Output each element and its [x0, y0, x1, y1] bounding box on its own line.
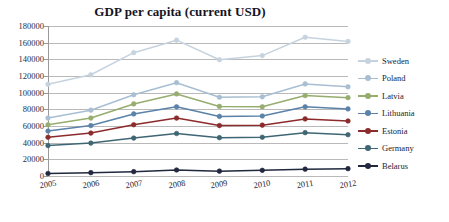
data-point[interactable]: [46, 122, 51, 127]
legend-item-germany[interactable]: Germany: [358, 140, 449, 158]
chart-container: GDP per capita (current USD) 02000040000…: [0, 0, 449, 222]
data-point[interactable]: [89, 116, 94, 121]
y-axis-tick-labels: 0200004000060000800001000001200001400001…: [0, 26, 44, 176]
data-point[interactable]: [89, 123, 94, 128]
data-point[interactable]: [131, 92, 136, 97]
y-axis-tick-label: 120000: [19, 72, 45, 81]
data-point[interactable]: [89, 141, 94, 146]
data-point[interactable]: [174, 38, 179, 43]
data-point[interactable]: [174, 92, 179, 97]
data-point[interactable]: [46, 82, 51, 87]
data-point[interactable]: [89, 108, 94, 113]
series-sweden: [46, 35, 351, 87]
legend-item-poland[interactable]: Poland: [358, 70, 449, 88]
data-point[interactable]: [260, 95, 265, 100]
plot-area: [48, 26, 348, 176]
y-axis-tick: [44, 176, 48, 177]
y-axis-tick-label: 100000: [19, 88, 45, 97]
data-point[interactable]: [346, 119, 351, 124]
series-lines: [48, 26, 348, 176]
legend-item-lithuania[interactable]: Lithuania: [358, 105, 449, 123]
data-point[interactable]: [217, 135, 222, 140]
data-point[interactable]: [260, 114, 265, 119]
legend-label: Belarus: [382, 161, 408, 171]
data-point[interactable]: [89, 170, 94, 175]
data-point[interactable]: [346, 107, 351, 112]
data-point[interactable]: [217, 57, 222, 62]
data-point[interactable]: [217, 104, 222, 109]
data-point[interactable]: [131, 122, 136, 127]
legend-label: Sweden: [382, 56, 409, 66]
data-point[interactable]: [303, 93, 308, 98]
legend-item-belarus[interactable]: Belarus: [358, 157, 449, 175]
data-point[interactable]: [217, 95, 222, 100]
legend-marker-icon: [358, 143, 378, 153]
x-axis-tick-label: 2008: [167, 179, 185, 191]
gridline: [48, 176, 348, 177]
data-point[interactable]: [46, 129, 51, 134]
data-point[interactable]: [131, 136, 136, 141]
data-point[interactable]: [303, 130, 308, 135]
data-point[interactable]: [217, 123, 222, 128]
series-belarus: [46, 166, 351, 175]
chart-legend: SwedenPolandLatviaLithuaniaEstoniaGerman…: [358, 52, 449, 175]
x-axis-tick-label: 2005: [39, 179, 57, 191]
data-point[interactable]: [303, 105, 308, 110]
x-axis-tick-label: 2011: [296, 179, 314, 190]
data-point[interactable]: [46, 143, 51, 148]
data-point[interactable]: [174, 116, 179, 121]
data-point[interactable]: [174, 105, 179, 110]
data-point[interactable]: [346, 166, 351, 171]
x-axis-tick-label: 2010: [253, 179, 271, 191]
data-point[interactable]: [346, 85, 351, 90]
data-point[interactable]: [174, 131, 179, 136]
data-point[interactable]: [303, 167, 308, 172]
data-point[interactable]: [217, 114, 222, 119]
data-point[interactable]: [131, 102, 136, 107]
y-axis-tick-label: 180000: [19, 22, 45, 31]
data-point[interactable]: [46, 135, 51, 140]
legend-marker-icon: [358, 56, 378, 66]
y-axis-tick-label: 140000: [19, 55, 45, 64]
x-axis-tick-label: 2012: [339, 179, 357, 191]
legend-label: Poland: [382, 73, 406, 83]
x-axis-tick-label: 2007: [125, 179, 143, 191]
y-axis-tick-label: 60000: [23, 122, 44, 131]
data-point[interactable]: [260, 123, 265, 128]
legend-label: Lithuania: [382, 108, 415, 118]
data-point[interactable]: [131, 169, 136, 174]
data-point[interactable]: [89, 72, 94, 77]
x-axis-tick-label: 2006: [82, 179, 100, 191]
legend-item-sweden[interactable]: Sweden: [358, 52, 449, 70]
data-point[interactable]: [346, 39, 351, 44]
legend-item-latvia[interactable]: Latvia: [358, 87, 449, 105]
data-point[interactable]: [174, 80, 179, 85]
data-point[interactable]: [303, 117, 308, 122]
y-axis-tick-label: 80000: [23, 105, 44, 114]
series-line: [48, 37, 348, 84]
data-point[interactable]: [260, 105, 265, 110]
data-point[interactable]: [260, 53, 265, 58]
data-point[interactable]: [260, 168, 265, 173]
data-point[interactable]: [260, 135, 265, 140]
x-axis-tick-label: 2009: [210, 179, 228, 191]
data-point[interactable]: [303, 35, 308, 40]
data-point[interactable]: [89, 131, 94, 136]
data-point[interactable]: [303, 82, 308, 87]
legend-marker-icon: [358, 126, 378, 136]
chart-title: GDP per capita (current USD): [0, 4, 360, 20]
data-point[interactable]: [131, 112, 136, 117]
legend-item-estonia[interactable]: Estonia: [358, 122, 449, 140]
data-point[interactable]: [346, 95, 351, 100]
legend-label: Latvia: [382, 91, 404, 101]
data-point[interactable]: [174, 168, 179, 173]
legend-marker-icon: [358, 108, 378, 118]
data-point[interactable]: [346, 132, 351, 137]
x-axis-tick-labels: 20052006200720082009201020112012: [48, 178, 348, 208]
y-axis-tick-label: 40000: [23, 138, 44, 147]
data-point[interactable]: [217, 169, 222, 174]
data-point[interactable]: [46, 171, 51, 176]
legend-label: Estonia: [382, 126, 408, 136]
data-point[interactable]: [131, 50, 136, 55]
data-point[interactable]: [46, 116, 51, 121]
